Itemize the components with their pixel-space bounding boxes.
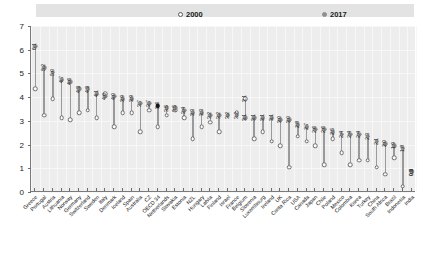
- connector-line: [350, 135, 351, 166]
- gridline-vertical: [320, 26, 321, 191]
- data-point-2000[interactable]: [121, 110, 126, 115]
- data-point-2000[interactable]: [357, 158, 362, 163]
- data-label-2000: 3.1: [241, 95, 247, 102]
- data-point-2000[interactable]: [182, 115, 187, 120]
- data-point-2000[interactable]: [322, 163, 327, 168]
- data-point-2000[interactable]: [33, 87, 38, 92]
- connector-line: [70, 83, 71, 121]
- data-label-2000: 0.3: [408, 169, 414, 176]
- data-label-2017: 3.1: [250, 114, 256, 121]
- data-point-2000[interactable]: [339, 151, 344, 156]
- gridline-vertical: [127, 26, 128, 191]
- data-label-2017: 2.4: [346, 131, 352, 138]
- data-label-2017: 5.2: [40, 64, 46, 71]
- gridline-vertical: [372, 26, 373, 191]
- x-axis-tick-mark: [43, 188, 44, 191]
- data-point-2000[interactable]: [278, 144, 283, 149]
- data-point-2000[interactable]: [269, 139, 274, 144]
- data-label-2017: 2.0: [381, 140, 387, 147]
- legend-item-2000[interactable]: 2000: [178, 8, 203, 21]
- solid-circle-icon: [322, 12, 327, 17]
- gridline-vertical: [250, 26, 251, 191]
- connector-line: [402, 149, 403, 187]
- x-axis-tick-mark: [104, 188, 105, 191]
- y-axis-tick-label: 0: [20, 188, 24, 197]
- data-label-2017: 3.5: [163, 105, 169, 112]
- data-point-2000[interactable]: [296, 134, 301, 139]
- data-point-2000[interactable]: [383, 172, 388, 177]
- data-point-2000[interactable]: [217, 129, 222, 134]
- data-point-2000[interactable]: [112, 125, 117, 130]
- data-point-2000[interactable]: [164, 113, 169, 118]
- data-point-2000[interactable]: [77, 110, 82, 115]
- data-point-2000[interactable]: [208, 120, 213, 125]
- connector-line: [323, 130, 324, 166]
- data-point-2000[interactable]: [261, 129, 266, 134]
- gridline-vertical: [294, 26, 295, 191]
- data-label-2017: 3.1: [268, 114, 274, 121]
- data-point-2000[interactable]: [348, 163, 353, 168]
- gridline-vertical: [416, 26, 417, 191]
- connector-line: [140, 104, 141, 132]
- gridline-vertical: [31, 26, 32, 191]
- x-axis-tick-mark: [349, 188, 350, 191]
- x-axis-tick-mark: [201, 188, 202, 191]
- x-axis-tick-mark: [358, 188, 359, 191]
- data-point-2000[interactable]: [252, 137, 257, 142]
- data-point-2000[interactable]: [68, 118, 73, 123]
- gridline-vertical: [267, 26, 268, 191]
- data-point-2000[interactable]: [313, 144, 318, 149]
- gridline-vertical: [136, 26, 137, 191]
- x-axis-tick-mark: [122, 188, 123, 191]
- data-label-2017: 3.2: [215, 112, 221, 119]
- data-label-2017: 3.7: [136, 100, 142, 107]
- data-label-2017: 3.7: [145, 100, 151, 107]
- data-point-2000[interactable]: [138, 129, 143, 134]
- data-label-2017: 6.1: [31, 43, 37, 50]
- x-axis-tick-mark: [376, 188, 377, 191]
- y-axis-tick-mark: [28, 97, 31, 98]
- x-axis-tick-mark: [236, 188, 237, 191]
- data-label-2017: 1.8: [399, 145, 405, 152]
- data-label-2017: 4.6: [66, 78, 72, 85]
- data-label-2017: 3.4: [180, 107, 186, 114]
- data-point-2000[interactable]: [191, 137, 196, 142]
- data-label-2017: 2.1: [373, 138, 379, 145]
- y-axis-tick-label: 2: [20, 140, 24, 149]
- hollow-circle-icon: [178, 12, 183, 17]
- data-point-2000[interactable]: [42, 113, 47, 118]
- data-point-2000[interactable]: [156, 125, 161, 130]
- gridline-vertical: [110, 26, 111, 191]
- data-point-2000[interactable]: [287, 165, 292, 170]
- legend-item-2017[interactable]: 2017: [322, 8, 347, 21]
- data-point-2000[interactable]: [199, 125, 204, 130]
- data-point-2000[interactable]: [94, 115, 99, 120]
- gridline-vertical: [259, 26, 260, 191]
- x-axis-tick-mark: [367, 188, 368, 191]
- x-axis-tick-mark: [384, 188, 385, 191]
- gridline-vertical: [276, 26, 277, 191]
- data-point-2000[interactable]: [129, 110, 134, 115]
- data-point-2000[interactable]: [374, 165, 379, 170]
- gridline-vertical: [311, 26, 312, 191]
- data-label-2017: 3.3: [189, 109, 195, 116]
- x-axis-tick-mark: [52, 188, 53, 191]
- data-point-2000[interactable]: [147, 108, 152, 113]
- data-point-2000[interactable]: [59, 115, 64, 120]
- data-point-2000[interactable]: [392, 156, 397, 161]
- data-label-2017: 3.6: [154, 102, 160, 109]
- y-axis-tick-label: 1: [20, 164, 24, 173]
- x-axis-tick-mark: [306, 188, 307, 191]
- data-point-2000[interactable]: [366, 158, 371, 163]
- data-label-2017: 4.1: [93, 90, 99, 97]
- data-point-2000[interactable]: [86, 108, 91, 113]
- data-label-2017: 2.5: [329, 128, 335, 135]
- gridline-vertical: [49, 26, 50, 191]
- data-point-2000[interactable]: [331, 137, 336, 142]
- data-point-2000[interactable]: [304, 139, 309, 144]
- data-label-2017: 2.7: [303, 124, 309, 131]
- data-label-2017: 2.3: [364, 133, 370, 140]
- data-label-2017: 3.2: [224, 112, 230, 119]
- data-point-2000[interactable]: [51, 96, 56, 101]
- gridline-vertical: [285, 26, 286, 191]
